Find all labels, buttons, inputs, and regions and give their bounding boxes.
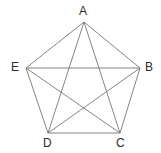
edge-d-e <box>26 68 48 133</box>
edge-a-c <box>84 22 120 133</box>
edge-b-d <box>48 68 140 133</box>
vertex-label-b: B <box>145 61 153 73</box>
pentagon-graph-figure: ABCDE <box>0 0 161 153</box>
edge-b-c <box>120 68 140 133</box>
edge-a-b <box>84 22 140 68</box>
edges-group <box>26 22 140 133</box>
edge-c-e <box>26 68 120 133</box>
vertex-label-a: A <box>79 5 87 17</box>
edge-e-a <box>26 22 84 68</box>
vertex-label-d: D <box>43 137 52 149</box>
vertex-label-c: C <box>116 137 125 149</box>
graph-canvas <box>0 0 161 153</box>
edge-a-d <box>48 22 84 133</box>
vertex-label-e: E <box>11 61 19 73</box>
